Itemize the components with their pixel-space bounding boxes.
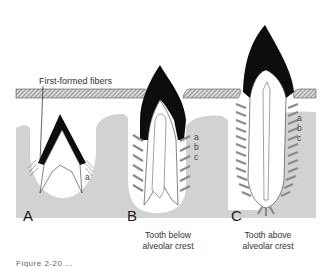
oral-epithelium-left bbox=[16, 89, 149, 98]
first-formed-fibers-label: First-formed fibers bbox=[39, 76, 112, 86]
panel-b-fiber-label-b: b bbox=[194, 143, 199, 152]
panel-a-fiber-label-a: a bbox=[85, 173, 90, 182]
panel-a-tooth bbox=[28, 86, 93, 193]
oral-epithelium-right bbox=[293, 89, 316, 98]
panel-c-fiber-label-a: a bbox=[297, 114, 302, 123]
oral-epithelium-middle bbox=[183, 89, 240, 98]
panel-b-caption-line2: alveolar crest bbox=[128, 241, 208, 252]
tooth-eruption-diagram bbox=[0, 0, 333, 267]
panel-c-caption-line2: alveolar crest bbox=[228, 241, 308, 252]
panel-c-letter: C bbox=[231, 207, 242, 224]
panel-b-fiber-label-a: a bbox=[194, 133, 199, 142]
panel-c-caption-line1: Tooth above bbox=[228, 230, 308, 241]
panel-b-caption-line1: Tooth below bbox=[128, 230, 208, 241]
figure-caption-cut: Figure 2-20 ... bbox=[16, 259, 73, 267]
panel-c-caption: Tooth above alveolar crest bbox=[228, 230, 308, 251]
panel-b-tooth bbox=[133, 65, 190, 205]
panel-b-caption: Tooth below alveolar crest bbox=[128, 230, 208, 251]
panel-b-fiber-label-c: c bbox=[194, 153, 198, 162]
panel-a-letter: A bbox=[23, 207, 33, 224]
panel-c-fiber-label-c: c bbox=[297, 134, 301, 143]
panel-b-letter: B bbox=[127, 207, 137, 224]
panel-c-fiber-label-b: b bbox=[297, 124, 302, 133]
